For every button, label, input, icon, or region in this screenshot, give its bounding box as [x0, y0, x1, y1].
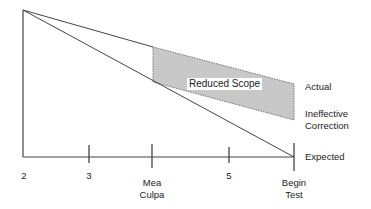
tick-label-mea: Mea	[143, 177, 161, 188]
tick-label-5: 5	[226, 170, 231, 181]
tick-label-begin: Begin	[282, 177, 306, 188]
diagram-canvas	[0, 0, 371, 209]
tick-label-3: 3	[86, 170, 91, 181]
tick-label-test: Test	[285, 189, 302, 200]
reduced-scope-label: Reduced Scope	[187, 78, 262, 90]
ineffective-correction-label-line2: Correction	[305, 120, 349, 131]
actual-line	[23, 10, 153, 47]
ineffective-correction-label-line1: Ineffective	[305, 108, 348, 119]
actual-label: Actual	[305, 81, 331, 92]
tick-label-culpa: Culpa	[140, 189, 165, 200]
tick-label-2: 2	[21, 170, 26, 181]
expected-label: Expected	[305, 151, 345, 162]
